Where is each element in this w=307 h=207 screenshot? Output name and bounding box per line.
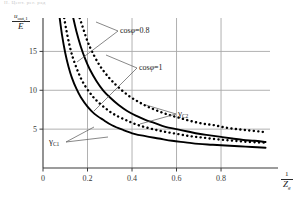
x-axis-label-numerator: 1 xyxy=(281,171,293,178)
data-curves xyxy=(60,18,266,148)
y-axis-label-denominator: E xyxy=(12,22,30,31)
y-axis-label-numerator: uout,1 xyxy=(12,13,30,20)
y-tick-label: 15 xyxy=(21,47,37,56)
x-tick-label: 0 xyxy=(41,174,45,183)
x-tick-label: 0.8 xyxy=(216,174,226,183)
chart-figure: II. Цент. рег. рад uout,1 E xyxy=(0,0,307,207)
y-axis-label: uout,1 E xyxy=(12,13,30,32)
annotation-cos-phi-1: cosφ=1 xyxy=(139,63,163,72)
axis-ticks xyxy=(40,51,222,171)
curve-gamma_C2 xyxy=(73,18,265,142)
x-axis-label-denominator: Zg xyxy=(281,180,293,189)
curve-gamma_C1_dotted xyxy=(64,18,265,143)
x-tick-label: 0.2 xyxy=(83,174,93,183)
x-tick-label: 0.6 xyxy=(172,174,182,183)
annotation-gamma-c2: γC2 xyxy=(178,108,188,118)
chart-canvas xyxy=(0,0,307,207)
annotation-cos-phi-08: cosφ=0.8 xyxy=(120,26,150,35)
y-tick-label: 5 xyxy=(21,125,37,134)
x-tick-label: 0.4 xyxy=(127,174,137,183)
curve-gamma_C1 xyxy=(60,18,266,148)
annotation-gamma-c1: γC1 xyxy=(49,136,59,146)
y-tick-label: 10 xyxy=(21,86,37,95)
x-axis-label: 1 Zg xyxy=(281,171,293,190)
